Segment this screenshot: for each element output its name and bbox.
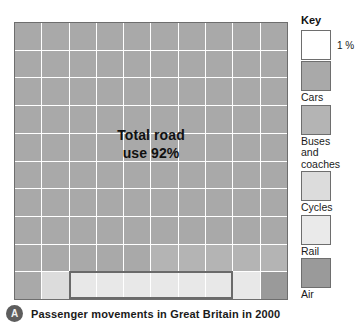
waffle-cell bbox=[179, 162, 205, 189]
waffle-cell bbox=[233, 106, 259, 133]
waffle-cell bbox=[42, 51, 68, 78]
waffle-chart: Total road use 92% bbox=[14, 22, 288, 300]
legend-swatch bbox=[301, 215, 331, 245]
waffle-cell bbox=[179, 134, 205, 161]
waffle-cell bbox=[97, 78, 123, 105]
waffle-cell bbox=[124, 189, 150, 216]
waffle-cell bbox=[179, 51, 205, 78]
legend-entry: Rail bbox=[301, 215, 361, 258]
waffle-cell bbox=[70, 189, 96, 216]
waffle-cell bbox=[124, 51, 150, 78]
waffle-cell bbox=[261, 217, 287, 244]
waffle-cell bbox=[233, 272, 259, 299]
waffle-cell bbox=[151, 217, 177, 244]
legend: Key 1 % CarsBuses and coachesCyclesRailA… bbox=[296, 14, 361, 302]
waffle-cell bbox=[206, 217, 232, 244]
waffle-cell bbox=[233, 51, 259, 78]
waffle-cell bbox=[151, 51, 177, 78]
legend-entry: Air bbox=[301, 258, 361, 301]
caption-text: Passenger movements in Great Britain in … bbox=[31, 308, 280, 320]
waffle-cell bbox=[261, 51, 287, 78]
waffle-cell bbox=[261, 106, 287, 133]
waffle-cell bbox=[42, 189, 68, 216]
waffle-cell bbox=[261, 272, 287, 299]
waffle-cell bbox=[97, 217, 123, 244]
waffle-cell bbox=[124, 217, 150, 244]
waffle-cell bbox=[42, 134, 68, 161]
waffle-cell bbox=[206, 134, 232, 161]
waffle-cell bbox=[70, 51, 96, 78]
waffle-cell bbox=[70, 162, 96, 189]
legend-swatch-unit bbox=[301, 30, 331, 60]
waffle-cell bbox=[124, 162, 150, 189]
legend-label: Buses and coaches bbox=[301, 136, 361, 171]
waffle-cell bbox=[97, 23, 123, 50]
waffle-cell bbox=[70, 217, 96, 244]
waffle-cell bbox=[42, 217, 68, 244]
waffle-cell bbox=[179, 106, 205, 133]
waffle-cell bbox=[151, 134, 177, 161]
waffle-cell bbox=[151, 189, 177, 216]
waffle-cell bbox=[42, 23, 68, 50]
waffle-cell bbox=[261, 162, 287, 189]
waffle-cell bbox=[233, 162, 259, 189]
caption-letter-badge-icon: A bbox=[6, 305, 23, 322]
waffle-cell bbox=[206, 272, 232, 299]
waffle-cell bbox=[15, 245, 41, 272]
waffle-cell bbox=[206, 23, 232, 50]
waffle-cell bbox=[70, 245, 96, 272]
waffle-cell bbox=[15, 51, 41, 78]
waffle-cell bbox=[70, 23, 96, 50]
legend-label: Cycles bbox=[301, 202, 361, 214]
waffle-cell bbox=[179, 189, 205, 216]
legend-entry: Cycles bbox=[301, 171, 361, 214]
waffle-cell bbox=[261, 245, 287, 272]
legend-unit-label: 1 % bbox=[337, 40, 354, 51]
waffle-cell bbox=[42, 162, 68, 189]
waffle-cell bbox=[42, 106, 68, 133]
waffle-cell bbox=[179, 23, 205, 50]
waffle-cell bbox=[124, 272, 150, 299]
waffle-cell bbox=[97, 272, 123, 299]
waffle-cell bbox=[151, 245, 177, 272]
waffle-cell bbox=[42, 245, 68, 272]
waffle-cell bbox=[261, 189, 287, 216]
waffle-cell bbox=[42, 272, 68, 299]
waffle-cell bbox=[15, 217, 41, 244]
waffle-cell bbox=[97, 106, 123, 133]
waffle-cell bbox=[124, 134, 150, 161]
waffle-cell bbox=[233, 78, 259, 105]
waffle-cell bbox=[97, 245, 123, 272]
waffle-cell bbox=[179, 245, 205, 272]
waffle-cell bbox=[151, 272, 177, 299]
waffle-cell bbox=[97, 162, 123, 189]
caption: A Passenger movements in Great Britain i… bbox=[6, 305, 280, 322]
waffle-cell bbox=[233, 217, 259, 244]
waffle-cell bbox=[15, 134, 41, 161]
waffle-cell bbox=[206, 51, 232, 78]
waffle-cell bbox=[124, 23, 150, 50]
waffle-cell bbox=[151, 23, 177, 50]
legend-label: Rail bbox=[301, 246, 361, 258]
legend-entries: CarsBuses and coachesCyclesRailAir bbox=[296, 61, 361, 301]
waffle-cell bbox=[179, 217, 205, 244]
waffle-cell bbox=[151, 162, 177, 189]
waffle-cell bbox=[15, 78, 41, 105]
waffle-cell bbox=[97, 51, 123, 78]
waffle-cell bbox=[233, 189, 259, 216]
waffle-cell bbox=[15, 162, 41, 189]
legend-swatch bbox=[301, 258, 331, 288]
waffle-cell bbox=[206, 78, 232, 105]
waffle-cell bbox=[15, 106, 41, 133]
waffle-cell bbox=[233, 245, 259, 272]
waffle-cell bbox=[261, 78, 287, 105]
legend-swatch bbox=[301, 171, 331, 201]
waffle-cell bbox=[15, 272, 41, 299]
waffle-cell bbox=[97, 189, 123, 216]
waffle-cell bbox=[151, 78, 177, 105]
waffle-cell bbox=[151, 106, 177, 133]
waffle-cell bbox=[179, 272, 205, 299]
waffle-cell bbox=[261, 134, 287, 161]
waffle-cell bbox=[70, 78, 96, 105]
waffle-cell bbox=[70, 106, 96, 133]
